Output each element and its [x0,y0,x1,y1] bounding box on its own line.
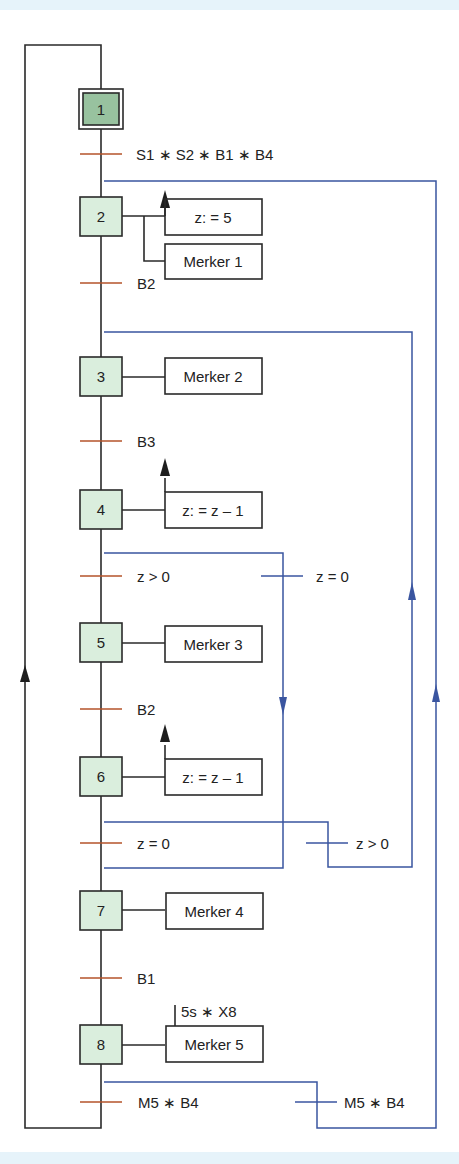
action-arrow-up-icon [160,458,170,476]
svg-text:Merker 4: Merker 4 [184,903,243,920]
step-6: 6 [80,757,122,796]
branch-transition-condition: z = 0 [316,568,349,585]
action-box: z: = z – 1 [165,492,262,528]
step-7: 7 [80,891,122,930]
transition-condition: M5 ∗ B4 [138,1094,199,1111]
step-1: 1 [79,89,123,129]
action-qualifier: 5s ∗ X8 [181,1003,237,1020]
step-3: 3 [80,357,122,396]
transition-condition: B2 [137,701,155,718]
step-2: 2 [80,197,122,236]
arrow-down-icon [279,697,287,715]
step-number: 6 [97,768,105,785]
action-box: z: = 5 [165,199,262,235]
action-box: Merker 4 [166,893,263,929]
action-box: Merker 3 [165,626,262,662]
step-number: 8 [97,1036,105,1053]
action-connectors [122,196,175,1045]
step-number: 4 [97,501,105,518]
branch-transition-condition: z > 0 [356,835,389,852]
step-4: 4 [80,490,122,529]
svg-text:z: = z – 1: z: = z – 1 [182,769,243,786]
branch-line-to-step-3 [104,332,412,867]
branch-transition-ticks [261,576,348,1102]
action-box: Merker 5 [166,1026,263,1062]
step-number: 1 [97,101,105,118]
action-arrow-up-icon [160,724,170,742]
sfc-diagram: 1 2 3 4 5 6 7 8 [0,0,459,1164]
svg-text:Merker 3: Merker 3 [183,636,242,653]
transition-condition: B1 [137,970,155,987]
transition-condition: S1 ∗ S2 ∗ B1 ∗ B4 [136,146,273,163]
action-box: Merker 1 [165,244,262,279]
svg-text:z: = 5: z: = 5 [194,209,231,226]
svg-text:Merker 5: Merker 5 [184,1036,243,1053]
loop-up-arrow-icon [20,665,30,682]
svg-text:Merker 1: Merker 1 [183,253,242,270]
transition-condition: z > 0 [137,568,170,585]
action-box: Merker 2 [165,358,262,394]
branch-transition-condition: M5 ∗ B4 [344,1094,405,1111]
svg-text:Merker 2: Merker 2 [183,368,242,385]
step-number: 7 [97,902,105,919]
step-number: 5 [97,634,105,651]
svg-text:z: = z – 1: z: = z – 1 [182,502,243,519]
step-number: 3 [97,368,105,385]
step-5: 5 [80,623,122,662]
arrow-up-icon [432,684,440,702]
branch-line-to-step-7 [104,553,283,868]
arrow-up-icon [408,582,416,600]
action-box: z: = z – 1 [165,759,262,795]
transition-condition: z = 0 [137,835,170,852]
transition-condition: B3 [137,433,155,450]
transition-condition: B2 [137,275,155,292]
step-number: 2 [97,208,105,225]
step-8: 8 [80,1025,122,1064]
